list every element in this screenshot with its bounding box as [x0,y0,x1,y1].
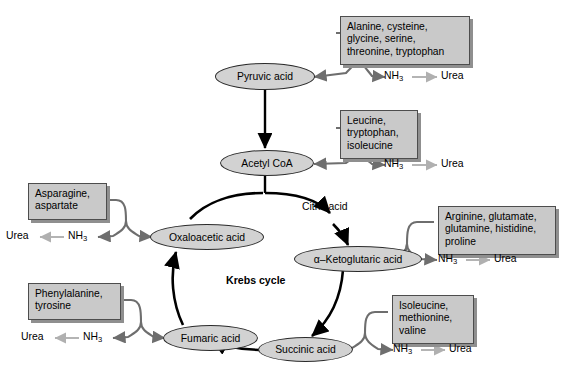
node-oxaloacetic-acid: Oxaloacetic acid [150,224,264,250]
ammonia-label-succinic: NH3 [393,343,412,356]
node-fumaric-acid: Fumaric acid [163,325,258,351]
amino-acid-box-succinic: Isoleucine, methionine, valine [392,295,474,344]
urea-label-succinic: Urea [449,343,472,354]
cycle-arc-top-left [190,193,263,219]
urea-label-fumaric: Urea [21,331,44,342]
amino-acid-box-pyruvic: Alanine, cysteine, glycine, serine, thre… [340,16,470,65]
urea-label-pyruvic: Urea [441,70,464,81]
node-succinic-acid: Succinic acid [258,337,353,362]
node-acetyl-coa: Acetyl CoA [220,150,314,176]
cycle-arc-right [333,224,348,245]
ammonia-label-pyruvic: NH3 [384,70,403,83]
node-ketoglutaric-acid: α–Ketoglutaric acid [294,246,422,272]
ammonia-label-ketoglutaric: NH3 [438,253,457,266]
urea-label-ketoglutaric: Urea [494,253,517,264]
amino-acid-box-oxaloacetic: Asparagine, aspartate [28,183,107,220]
label-krebs-cycle: Krebs cycle [226,274,285,286]
urea-label-acetyl: Urea [441,158,464,169]
urea-label-oxaloacetic: Urea [6,230,29,241]
cycle-arc-bottom-right [312,270,343,336]
amino-acid-box-ketoglutaric: Arginine, glutamate, glutamine, histidin… [438,206,556,255]
node-pyruvic-acid: Pyruvic acid [215,63,315,90]
figure-caption-fragment [4,376,304,387]
label-citric-acid: Citric acid [302,201,348,212]
krebs-cycle-diagram: Alanine, cysteine, glycine, serine, thre… [0,0,562,388]
amino-acid-box-acetyl: Leucine, tryptophan, isoleucine [340,110,418,159]
ammonia-label-fumaric: NH3 [83,331,102,344]
amino-acid-box-fumaric: Phenylalanine, tyrosine [28,283,121,320]
ammonia-label-acetyl: NH3 [384,158,403,171]
ammonia-label-oxaloacetic: NH3 [68,230,87,243]
cycle-arc-left [173,252,183,325]
